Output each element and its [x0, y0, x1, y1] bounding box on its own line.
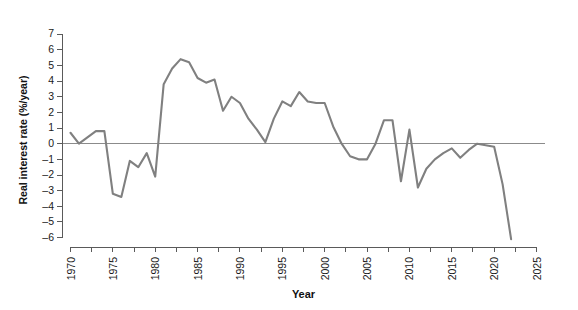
x-axis-title: Year — [292, 288, 316, 300]
x-tick-label: 1970 — [65, 257, 77, 281]
y-tick-label: 5 — [48, 59, 54, 71]
y-tick-label: 2 — [48, 106, 54, 118]
x-tick-label: 1980 — [149, 257, 161, 281]
x-tick-label: 2015 — [446, 257, 458, 281]
data-series-line — [70, 59, 511, 239]
y-tick-label: 4 — [48, 74, 54, 86]
y-tick-label: –3 — [42, 184, 54, 196]
x-tick-label: 1975 — [107, 257, 119, 281]
x-tick-label: 2020 — [488, 257, 500, 281]
y-tick-label: –2 — [42, 168, 54, 180]
y-tick-label: –6 — [42, 231, 54, 243]
x-tick-label: 1995 — [276, 257, 288, 281]
y-tick-label: –1 — [42, 153, 54, 165]
y-tick-label: 7 — [48, 27, 54, 39]
x-tick-label: 2025 — [531, 257, 543, 281]
y-tick-label: 0 — [48, 137, 54, 149]
y-tick-label: 1 — [48, 121, 54, 133]
y-tick-label: –4 — [42, 200, 54, 212]
y-tick-label: 3 — [48, 90, 54, 102]
series-real-interest-rate — [70, 59, 511, 239]
x-tick-label: 1990 — [234, 257, 246, 281]
x-tick-label: 2005 — [361, 257, 373, 281]
x-tick-label: 2010 — [403, 257, 415, 281]
x-axis — [70, 247, 536, 252]
y-tick-label: –5 — [42, 215, 54, 227]
x-tick-label: 2000 — [319, 257, 331, 281]
axis-tick-labels: –6–5–4–3–2–10123456719701975198019851990… — [42, 27, 542, 280]
y-axis — [57, 34, 62, 237]
chart-figure: –6–5–4–3–2–10123456719701975198019851990… — [0, 0, 578, 310]
line-chart-svg: –6–5–4–3–2–10123456719701975198019851990… — [0, 0, 578, 310]
y-tick-label: 6 — [48, 43, 54, 55]
x-tick-label: 1985 — [192, 257, 204, 281]
y-axis-title: Real interest rate (%/year) — [17, 76, 29, 205]
